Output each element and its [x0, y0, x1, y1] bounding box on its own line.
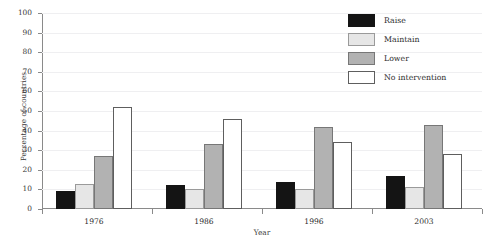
y-axis-tick-label: 90	[23, 28, 32, 37]
bar-lower-2003	[424, 125, 443, 209]
bar-no-intervention-1996	[333, 142, 352, 209]
bar-group	[166, 13, 242, 209]
bar-no-intervention-1986	[223, 119, 242, 209]
y-axis-tick-label: 20	[23, 165, 32, 174]
legend-item-maintain: Maintain	[348, 30, 488, 49]
bar-maintain-1986	[185, 189, 204, 209]
bar-group	[276, 13, 352, 209]
bar-raise-1996	[276, 182, 295, 209]
x-axis-tick	[482, 209, 483, 214]
legend-swatch-maintain	[348, 33, 375, 46]
bar-no-intervention-1976	[113, 107, 132, 209]
x-axis-tick	[152, 209, 153, 214]
legend-label: Maintain	[384, 35, 419, 44]
x-axis-title: Year	[42, 228, 482, 237]
y-axis-tick: 20	[38, 170, 42, 171]
y-axis-tick: 80	[38, 52, 42, 53]
bar-raise-1976	[56, 191, 75, 209]
bar-group	[56, 13, 132, 209]
legend-swatch-raise	[348, 14, 375, 27]
bar-no-intervention-2003	[443, 154, 462, 209]
x-axis-label-1996: 1996	[304, 217, 323, 226]
y-axis-tick-label: 70	[23, 67, 32, 76]
y-axis-tick-label: 80	[23, 47, 32, 56]
bar-maintain-1976	[75, 184, 94, 209]
bar-lower-1996	[314, 127, 333, 209]
legend-label: Lower	[384, 54, 409, 63]
bar-chart: Percentage of countries 0102030405060708…	[0, 0, 492, 248]
bar-lower-1986	[204, 144, 223, 209]
chart-legend: RaiseMaintainLowerNo intervention	[348, 11, 488, 87]
y-axis-tick: 50	[38, 111, 42, 112]
x-axis-tick	[42, 209, 43, 214]
legend-item-no-intervention: No intervention	[348, 68, 488, 87]
bar-raise-2003	[386, 176, 405, 209]
legend-label: No intervention	[384, 73, 446, 82]
x-axis-label-1976: 1976	[84, 217, 103, 226]
y-axis-tick-label: 40	[23, 126, 32, 135]
bar-maintain-2003	[405, 187, 424, 209]
y-axis-tick: 60	[38, 91, 42, 92]
legend-swatch-no-intervention	[348, 71, 375, 84]
y-axis-tick: 10	[38, 189, 42, 190]
legend-swatch-lower	[348, 52, 375, 65]
legend-label: Raise	[384, 16, 406, 25]
bar-raise-1986	[166, 185, 185, 209]
y-axis-tick-label: 0	[27, 204, 32, 213]
y-axis-tick-label: 100	[18, 8, 32, 17]
y-axis-tick: 100	[38, 13, 42, 14]
x-axis-tick	[262, 209, 263, 214]
bar-lower-1976	[94, 156, 113, 209]
x-axis-label-2003: 2003	[414, 217, 433, 226]
y-axis-tick: 40	[38, 131, 42, 132]
y-axis-tick-label: 50	[23, 106, 32, 115]
legend-item-lower: Lower	[348, 49, 488, 68]
x-axis-tick	[372, 209, 373, 214]
x-axis-label-1986: 1986	[194, 217, 213, 226]
y-axis-tick: 30	[38, 150, 42, 151]
y-axis-tick: 90	[38, 33, 42, 34]
y-axis-tick: 70	[38, 72, 42, 73]
y-axis-tick-label: 60	[23, 86, 32, 95]
y-axis-tick-label: 30	[23, 145, 32, 154]
legend-item-raise: Raise	[348, 11, 488, 30]
bar-maintain-1996	[295, 189, 314, 209]
y-axis-tick-label: 10	[23, 184, 32, 193]
